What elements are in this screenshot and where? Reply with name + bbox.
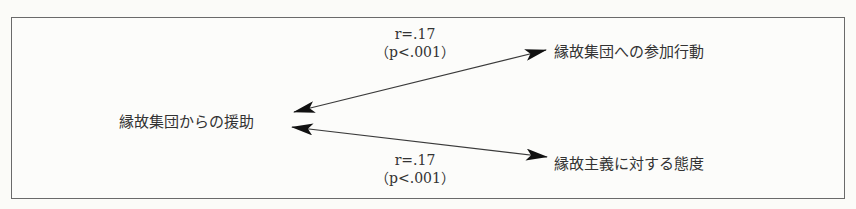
- node-participation: 縁故集団への参加行動: [554, 40, 704, 61]
- edge-top-r: r=.17: [355, 25, 475, 43]
- node-attitude: 縁故主義に対する態度: [554, 152, 704, 173]
- edge-top-p: （p<.001）: [355, 43, 475, 61]
- edge-bottom-p: （p<.001）: [355, 169, 475, 187]
- edge-bottom-stat: r=.17 （p<.001）: [355, 151, 475, 187]
- node-source: 縁故集団からの援助: [119, 110, 254, 131]
- edge-top-stat: r=.17 （p<.001）: [355, 25, 475, 61]
- edge-bottom-r: r=.17: [355, 151, 475, 169]
